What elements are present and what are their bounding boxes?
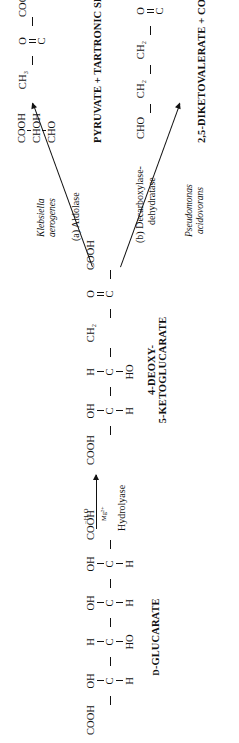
enzyme-decarboxylase-dehydratase: (b) Decarboxylase- dehydratase [134, 166, 158, 243]
bond-vertical [116, 411, 123, 412]
bond-horizontal [110, 696, 111, 705]
bond-horizontal [110, 579, 111, 588]
bond-vertical [97, 642, 104, 643]
substituent-top-oxygen: O [84, 290, 97, 298]
carbon-atom-keto: O C [134, 0, 166, 26]
carbon-atom: OH C H [84, 666, 136, 696]
group-cooh: COOH [16, 113, 27, 143]
bond-horizontal [32, 17, 33, 26]
label-intermediate-line2: 5-KETOGLUCARATE [157, 275, 168, 465]
bond-horizontal [110, 618, 111, 627]
condition-magnesium-text: Mg²⁺ [100, 506, 107, 521]
chain-tartronic-semialdehyde: COOH CHOH CHO [16, 113, 57, 143]
carbon-atom: CH₂ [84, 318, 136, 348]
bond-vertical [97, 681, 104, 682]
organism-klebsiella-genus: Klebsiella [36, 198, 47, 237]
substituent-top: CHO [134, 117, 147, 139]
substituent-top: CH₂ [84, 324, 97, 342]
bond-horizontal [110, 426, 111, 435]
substituent-top: H [84, 638, 97, 646]
carbon-atom: OH C H [84, 588, 136, 618]
carbon-core: C [104, 678, 116, 685]
enzyme-decarboxylase-line2: dehydratase [146, 166, 158, 243]
enzyme-aldolase: (a) Aldolase [70, 192, 81, 241]
structure-d-glucarate: COOH OH C H H C HO [84, 510, 136, 735]
bond-horizontal [150, 104, 151, 113]
structure-4-deoxy-5-ketoglucarate: COOH OH C H H C HO [84, 240, 136, 465]
condition-minus-water-text: −H₂O [82, 509, 89, 524]
carbon-atom: COOH [84, 435, 136, 465]
carbon-atom: COOH [16, 0, 48, 17]
carbon-atom-keto: O C [16, 26, 48, 56]
bond-vertical [116, 603, 123, 604]
carbon-core: C [104, 600, 116, 607]
carbon-atom: COOH [84, 705, 136, 735]
label-d-glucarate-rest: -GLUCARATE [150, 598, 161, 669]
label-d-glucarate: D-GLUCARATE [150, 539, 161, 735]
bond-vertical [97, 411, 104, 412]
enzyme-hydrolyase-label: Hydrolyase [116, 485, 127, 531]
enzyme-hydrolyase: Hydrolyase [116, 485, 127, 531]
enzyme-aldolase-label: (a) Aldolase [70, 192, 81, 241]
substituent-top: COOH [16, 0, 29, 17]
pathway-diagram: COOH OH C H H C HO [0, 0, 239, 743]
structure-tartronic-semialdehyde: COOH CHOH CHO [16, 113, 57, 143]
label-4-deoxy-5-ketoglucarate: 4-DEOXY- 5-KETOGLUCARATE [146, 275, 168, 465]
substituent-top: OH [84, 595, 97, 610]
bond-vertical [97, 564, 104, 565]
carbon-core: C [104, 291, 116, 298]
condition-magnesium: Mg²⁺ [100, 506, 108, 521]
label-d-glucarate-prefix: D [151, 669, 161, 676]
bond-vertical [116, 372, 123, 373]
bond-horizontal [150, 26, 151, 35]
bond-vertical [116, 642, 123, 643]
carbon-core: C [36, 38, 48, 45]
label-diketovalerate: 2,5-DIKETOVALERATE + CO₂ + H₂O [196, 0, 207, 143]
bond-horizontal [110, 270, 111, 279]
chain-d-glucarate: COOH OH C H H C HO [84, 510, 136, 735]
bond-vertical [116, 564, 123, 565]
chain-4-deoxy-5-ketoglucarate: COOH OH C H H C HO [84, 240, 136, 465]
label-intermediate-line1: 4-DEOXY- [146, 275, 157, 465]
bond-horizontal [150, 65, 151, 74]
bond-double [29, 39, 36, 43]
bond-double [97, 292, 104, 296]
organism-pseudomonas-genus: Pseudomonas [184, 184, 195, 237]
carbon-core: C [104, 561, 116, 568]
substituent-top: COOH [84, 705, 97, 735]
organism-pseudomonas-acidovorans: Pseudomonas acidovorans [184, 184, 206, 237]
carbon-core: C [154, 8, 166, 15]
bond-horizontal [110, 540, 111, 549]
bond-double [147, 9, 154, 13]
bond-horizontal [110, 387, 111, 396]
substituent-top: OH [84, 403, 97, 418]
carbon-atom-keto: O C [84, 279, 136, 309]
carbon-atom: H C HO [84, 357, 136, 387]
bond-horizontal [110, 657, 111, 666]
bond-vertical [97, 372, 104, 373]
substituent-bottom: H [123, 599, 136, 607]
chain-2-5-diketovalerate: CHO CH₂ CH₂ O C [134, 0, 166, 143]
substituent-top-oxygen: O [16, 37, 29, 45]
bond-horizontal [110, 309, 111, 318]
substituent-top: CH₃ [16, 71, 29, 89]
substituent-bottom: HO [123, 634, 136, 649]
bond-vertical [97, 603, 104, 604]
substituent-top-oxygen: O [134, 7, 147, 15]
carbon-core: C [104, 408, 116, 415]
carbon-atom: CH₂ [134, 74, 166, 104]
organism-pseudomonas-species: acidovorans [195, 184, 206, 237]
substituent-bottom: H [123, 560, 136, 568]
carbon-atom: OH C H [84, 396, 136, 426]
substituent-top: OH [84, 673, 97, 688]
carbon-atom: CH₃ [16, 65, 48, 95]
organism-klebsiella-species: aerogenes [47, 198, 58, 237]
carbon-atom: COOH [84, 510, 136, 540]
carbon-atom: OH C H [84, 549, 136, 579]
substituent-top: H [84, 368, 97, 376]
carbon-core: C [104, 639, 116, 646]
substituent-bottom: HO [123, 364, 136, 379]
label-products-branch-a: PYRUVATE + TARTRONIC SEMIALDEHYDE [92, 3, 103, 143]
condition-minus-water: −H₂O [82, 509, 89, 524]
substituent-top: OH [84, 556, 97, 571]
